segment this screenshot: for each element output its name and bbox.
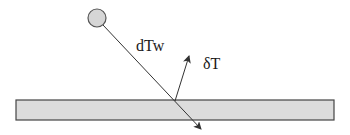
reflected-ray-arrow: [175, 56, 189, 101]
surface-slab: [16, 100, 334, 120]
source-circle: [88, 9, 106, 27]
incident-label: dTw: [136, 38, 164, 54]
diagram-canvas: dTw δT: [0, 0, 350, 135]
diagram-svg: [0, 0, 350, 135]
reflected-label: δT: [203, 56, 220, 72]
